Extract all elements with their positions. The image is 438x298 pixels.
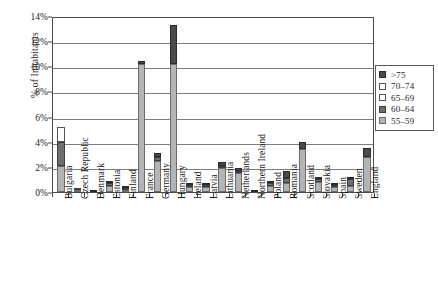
x-axis-category-label: Ireland [193,171,203,199]
bar-segment [57,142,64,166]
bar-segment [363,148,370,157]
legend-label: 65–69 [391,93,415,103]
legend-label: 55–59 [391,116,415,126]
x-axis-category-label: Poland [273,172,283,199]
legend-swatch-icon [379,71,386,78]
bar-segment [299,142,306,150]
y-axis-tick-label: 2% [8,163,48,173]
x-axis-category-label: Romania [289,164,299,199]
bar-segment [57,127,64,142]
chart-figure: % of Inhabitants 0%2%4%6%8%10%12%14% Bul… [0,0,438,298]
x-axis-category-label: England [370,167,380,199]
x-axis-category-label: Czech Republic [80,137,90,199]
y-axis-tick-label: 14% [8,12,48,22]
legend-swatch-icon [379,94,386,101]
x-axis-category-label: France [145,173,155,199]
x-axis-category-label: Hungary [177,165,187,199]
x-axis-category-label: Germany [161,163,171,199]
y-axis-tick-label: 6% [8,113,48,123]
x-axis-category-label: Scotland [306,165,316,199]
x-axis-category-label: Finland [128,169,138,199]
x-axis-category-label: Denmark [96,163,106,199]
y-axis-tick-label: 10% [8,62,48,72]
x-axis-category-label: Estonia [112,170,122,199]
x-axis-category-label: Netherlands [241,152,251,199]
x-axis-category-label: Latvia [209,174,219,199]
legend-label: 60–64 [391,104,415,114]
chart-legend: >7570–7465–6960–6455–59 [375,65,434,131]
x-axis-tick-mark [52,193,53,197]
x-axis-category-label: Sweden [354,168,364,199]
legend-swatch-icon [379,117,386,124]
legend-swatch-icon [379,106,386,113]
legend-swatch-icon [379,83,386,90]
x-axis-category-label: Slovakia [322,165,332,199]
legend-label: >75 [391,70,406,80]
legend-item: 65–69 [379,92,431,104]
legend-item: >75 [379,69,431,81]
y-axis-tick-label: 4% [8,138,48,148]
legend-label: 70–74 [391,81,415,91]
y-axis-tick-label: 0% [8,188,48,198]
bar-segment [170,25,177,64]
x-axis-category-label: Northern Ireland [257,134,267,199]
y-axis-tick-label: 12% [8,37,48,47]
x-axis-category-label: Bulgaria [64,165,74,199]
legend-item: 55–59 [379,115,431,127]
y-axis-tick-label: 8% [8,87,48,97]
x-axis-category-label: Lithuania [225,162,235,199]
legend-item: 60–64 [379,104,431,116]
x-axis-category-label: Spain [338,177,348,199]
legend-item: 70–74 [379,81,431,93]
